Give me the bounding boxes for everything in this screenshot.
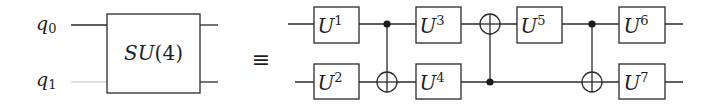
su4-gate-label: SU(4): [124, 41, 183, 65]
control-dot-icon: [383, 20, 390, 27]
gate-u1: U1: [314, 7, 359, 43]
qubit-label-q1: q1: [36, 68, 56, 92]
right-circuit: U1 U2 U3 U4: [288, 7, 683, 99]
gate-u2: U2: [314, 64, 359, 99]
qubit-label-q0: q0: [36, 12, 56, 36]
control-dot-icon: [588, 20, 595, 27]
control-dot-icon: [486, 78, 493, 85]
gate-u3: U3: [416, 7, 461, 43]
circuit-diagram: q0 q1 SU(4) ≡ U1 U2: [0, 0, 718, 111]
equivalence-symbol: ≡: [252, 47, 270, 72]
gate-u4: U4: [416, 64, 461, 99]
gate-u5: U5: [517, 7, 562, 43]
gate-u6: U6: [619, 7, 665, 43]
left-circuit: q0 q1 SU(4): [36, 12, 218, 93]
gate-u7: U7: [619, 64, 665, 99]
cnot-3: [582, 20, 602, 92]
cnot-1: [377, 20, 397, 92]
cnot-2: [480, 14, 500, 86]
